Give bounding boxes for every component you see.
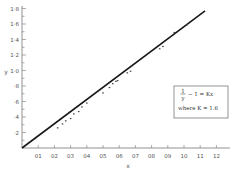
data-point (117, 80, 119, 81)
x-tick-label: 02 (51, 153, 58, 159)
data-point (159, 48, 161, 49)
data-point (81, 106, 83, 107)
y-tick-label: ·6 (14, 99, 20, 105)
y-axis-label: y (4, 68, 8, 76)
y-tick-label: 1·2 (10, 52, 19, 58)
data-point (57, 127, 59, 128)
data-point (86, 102, 88, 103)
x-tick-label: 09 (164, 153, 171, 159)
data-point (115, 81, 117, 82)
legend-equation: − 1 = Kx (188, 91, 214, 97)
y-tick-label: ·4 (14, 114, 20, 120)
data-point (62, 123, 64, 124)
x-tick-label: 03 (67, 153, 74, 159)
data-point (112, 83, 114, 84)
scatter-chart: 010203040506070809101112·2·4·6·81·01·21·… (0, 0, 236, 172)
x-tick-label: 11 (197, 153, 204, 159)
y-tick-label: 1·0 (10, 68, 19, 74)
fit-line (22, 11, 205, 148)
x-tick-label: 04 (83, 153, 90, 159)
data-point (102, 92, 104, 93)
data-point (73, 113, 75, 114)
x-tick-label: 12 (213, 153, 220, 159)
y-tick-label: ·8 (14, 83, 20, 89)
legend-fraction-num: 1 (181, 88, 185, 94)
x-axis-label: x (126, 162, 130, 169)
data-point (109, 87, 111, 88)
y-tick-label: 1·8 (10, 6, 19, 12)
x-tick-label: 05 (100, 153, 107, 159)
y-tick-label: 1·6 (10, 21, 19, 27)
x-tick-label: 10 (181, 153, 188, 159)
x-tick-label: 08 (148, 153, 155, 159)
legend-constant: where K = 1.6 (178, 105, 219, 111)
data-point (127, 72, 129, 73)
data-point (162, 46, 164, 47)
legend-box: 1 y − 1 = Kx where K = 1.6 (174, 86, 228, 118)
axes: 010203040506070809101112·2·4·6·81·01·21·… (10, 6, 230, 160)
data-points (57, 24, 188, 128)
y-tick-label: 1·4 (10, 37, 19, 43)
fit-line-path (22, 11, 205, 148)
data-point (70, 118, 72, 119)
x-tick-label: 07 (132, 153, 139, 159)
data-point (78, 111, 80, 112)
data-point (173, 32, 175, 33)
data-point (65, 120, 67, 121)
x-tick-label: 01 (35, 153, 42, 159)
x-tick-label: 06 (116, 153, 123, 159)
data-point (130, 71, 132, 72)
y-tick-label: ·2 (14, 130, 19, 136)
data-point (186, 24, 188, 25)
